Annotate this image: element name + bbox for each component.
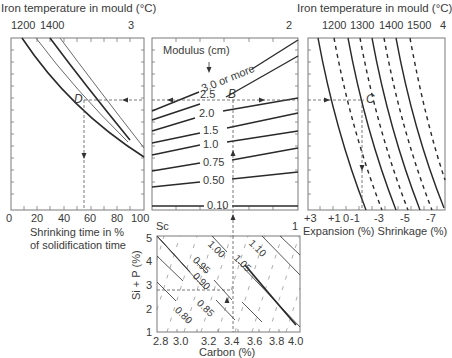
panel-4-x-tick-minus7: -7 [426,213,436,224]
arrow-up-icon [231,150,236,156]
panel-2-modulus-lines [152,40,298,206]
panel-1-x-label: Carbon (%) [199,347,255,358]
arrow-left-icon [167,98,173,103]
arrow-left-icon [122,98,128,103]
modulus-label-2-0: 2.0 [199,108,214,119]
modulus-label-1-0: 1.0 [203,139,218,150]
panel-4-solid-curves [318,38,444,210]
panel-1-y-tick-2: 2 [146,304,152,315]
panel-1-sc-1-line [245,265,296,325]
panel-3-frame [11,38,144,210]
panel-1-y-tick-1: 1 [146,327,152,338]
panel-1-x-tick-2-8: 2.8 [153,336,168,347]
arrow-down-icon [82,153,87,159]
arrow-right-icon [324,98,330,103]
panel-4-number: 4 [440,20,446,31]
panel-4-x-tick-minus1: -1 [350,213,360,224]
arrow-down-icon [360,165,365,171]
panel-1-y-label: Si + P (%) [131,250,142,300]
modulus-label-1-5: 1.5 [203,125,218,136]
panel-1-y-tick-4: 4 [146,256,152,267]
panel-3-top-tick-1200: 1200 [11,20,35,31]
panel-3-x-label-line1: Shrinking time in % [30,227,124,238]
panel-3-x-tick-20: 20 [31,213,43,224]
panel-3-guide [84,100,144,210]
panel-3-curves [22,38,144,157]
panel-4-x-tick-minus3: -3 [374,213,384,224]
panel-3-x-tick-0: 0 [6,213,12,224]
modulus-label-0-75: 0.75 [203,157,224,168]
panel-3-x-tick-40: 40 [58,213,70,224]
arrow-up-icon [231,214,236,220]
panel-1-y-tick-3: 3 [146,280,152,291]
point-b-label: B [228,88,236,100]
panel-1-x-tick-4-0: 4.0 [288,336,303,347]
panel-3-number: 3 [128,20,134,31]
panel-4-top-tick-1500: 1500 [407,20,431,31]
panel-3-x-label-line2: of solidification time [30,240,126,251]
panel-4-top-tick-1300: 1300 [350,20,374,31]
panel-4-x-tick-minus5: -5 [400,213,410,224]
panel-2-title: Modulus (cm) [163,45,230,56]
modulus-label-0-50: 0.50 [203,175,224,186]
panel-1-number: 1 [292,221,298,232]
panel-4-x-tick-plus3: +3 [304,213,317,224]
arrow-right-icon [259,98,265,103]
panel-1-sc-label: Sc [156,221,169,232]
panel-4-dashed-curves [334,38,445,210]
panel-4-top-tick-1400: 1400 [379,20,403,31]
modulus-label-2-5: 2.5 [200,89,215,100]
panel-3-top-tick-1400: 1400 [40,20,64,31]
panel-2-number: 2 [286,20,292,31]
point-c-label: C [366,93,375,105]
panel-3-x-tick-80: 80 [111,213,123,224]
panel-4-top-axis-title: Iron temperature in mould (°C) [297,3,452,15]
modulus-label-0-10: 0.10 [207,200,228,211]
panel-4-top-tick-1200: 1200 [322,20,346,31]
panel-4-x-label: Expansion (%) Shrinkage (%) [303,226,447,237]
panel-1-x-tick-3-8: 3.8 [269,336,284,347]
panel-1-x-tick-3-0: 3.0 [173,336,188,347]
panel-3-x-tick-60: 60 [84,213,96,224]
panel-3-top-axis-title: Iron temperature in mould (°C) [1,3,156,15]
point-d-label: D [74,93,83,105]
panel-1-y-tick-5: 5 [146,233,152,244]
panel-4-x-tick-0: 0 [343,213,349,224]
panel-3-x-tick-100: 100 [131,213,149,224]
panel-4-x-tick-plus1: +1 [328,213,341,224]
